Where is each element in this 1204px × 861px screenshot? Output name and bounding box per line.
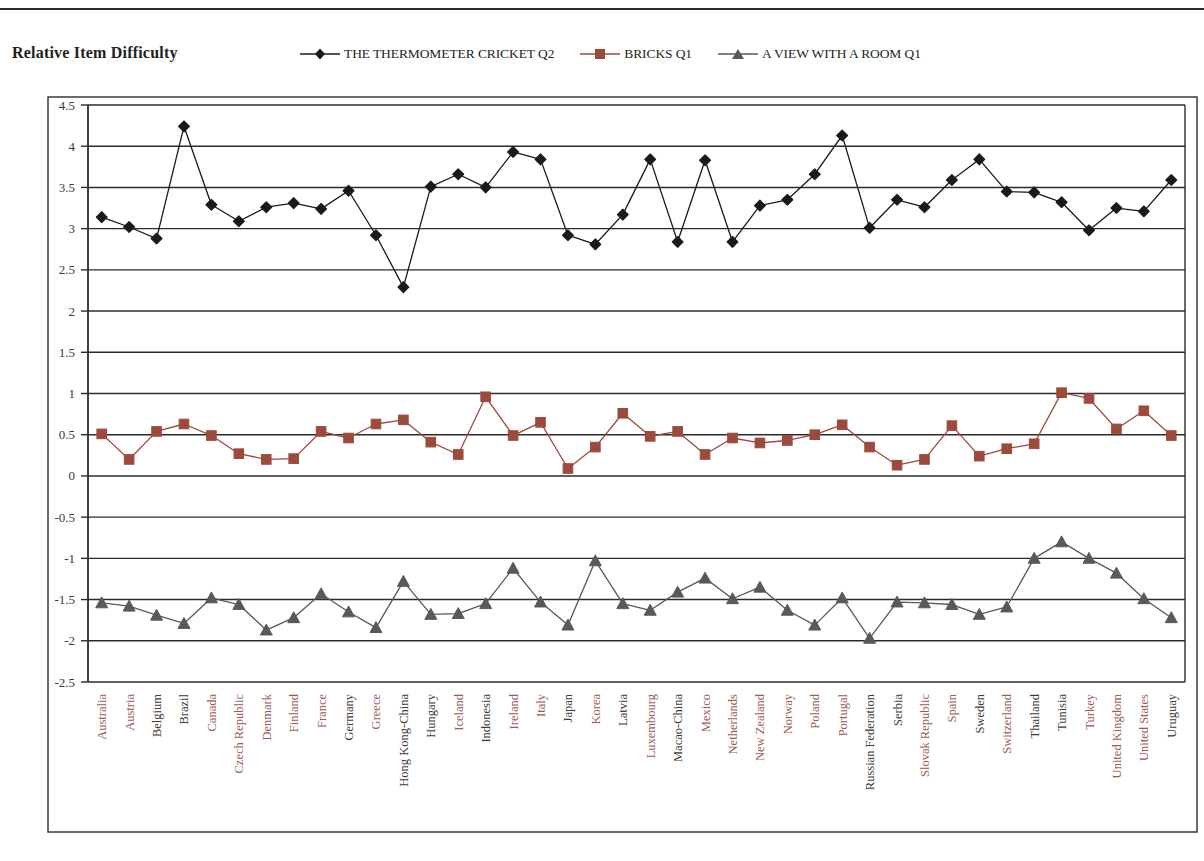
y-tick-label: 3 xyxy=(69,221,76,236)
chart-legend: THE THERMOMETER CRICKET Q2 BRICKS Q1 A V… xyxy=(300,46,921,62)
data-point-square xyxy=(700,450,710,460)
x-axis-label: Germany xyxy=(342,693,356,740)
data-point-triangle xyxy=(343,606,355,617)
data-point-triangle xyxy=(864,632,876,643)
data-point-square xyxy=(289,454,299,464)
data-point-square xyxy=(892,460,902,470)
legend-item-a-view-with-a-room: A VIEW WITH A ROOM Q1 xyxy=(718,46,921,62)
x-axis-label: Latvia xyxy=(616,694,630,726)
y-tick-label: 4.5 xyxy=(59,98,75,113)
data-point-diamond xyxy=(233,216,244,227)
data-point-square xyxy=(179,419,189,429)
data-series xyxy=(96,121,1178,643)
data-point-triangle xyxy=(1110,567,1122,578)
data-point-triangle xyxy=(1165,612,1177,623)
data-point-square xyxy=(618,408,628,418)
x-axis-label: France xyxy=(315,694,329,728)
x-axis-label: Thailand xyxy=(1028,693,1042,738)
data-point-square xyxy=(124,455,134,465)
y-tick-label: -1 xyxy=(64,551,75,566)
x-axis-label: Finland xyxy=(287,693,301,732)
y-tick-label: 4 xyxy=(69,139,76,154)
x-axis-label: Australia xyxy=(95,694,109,740)
data-point-square xyxy=(920,455,930,465)
data-point-triangle xyxy=(589,555,601,566)
data-point-square xyxy=(975,451,985,461)
x-axis-label: United States xyxy=(1137,694,1151,761)
data-point-triangle xyxy=(836,592,848,603)
data-point-triangle xyxy=(891,596,903,607)
data-point-square xyxy=(1139,406,1149,416)
data-point-square xyxy=(591,442,601,452)
data-point-diamond xyxy=(453,169,464,180)
data-point-square xyxy=(1057,388,1067,398)
x-axis-label: Spain xyxy=(945,693,959,722)
data-point-diamond xyxy=(837,130,848,141)
data-point-diamond xyxy=(672,236,683,247)
y-axis-ticks xyxy=(81,105,88,682)
data-point-triangle xyxy=(315,588,327,599)
data-point-diamond xyxy=(755,200,766,211)
data-point-square xyxy=(1084,394,1094,404)
data-point-diamond xyxy=(398,282,409,293)
data-point-diamond xyxy=(563,230,574,241)
x-axis-label: Brazil xyxy=(177,693,191,724)
x-axis-label: Ireland xyxy=(507,693,521,729)
data-point-square xyxy=(536,418,546,428)
x-axis-label: Mexico xyxy=(699,694,713,732)
x-axis-label: Netherlands xyxy=(726,694,740,755)
x-axis-label: Hong Kong-China xyxy=(397,694,411,787)
x-axis-label: Macao-China xyxy=(671,694,685,762)
x-axis-label: Norway xyxy=(781,693,795,734)
data-point-square xyxy=(508,431,518,441)
x-axis-label: New Zealand xyxy=(753,693,767,761)
data-point-diamond xyxy=(179,121,190,132)
data-point-square xyxy=(837,420,847,430)
x-axis-label: Turkey xyxy=(1083,693,1097,729)
y-tick-label: -2 xyxy=(64,633,75,648)
data-point-triangle xyxy=(1056,536,1068,547)
data-point-square xyxy=(426,437,436,447)
x-axis-label: Tunisia xyxy=(1055,694,1069,732)
legend-marker-diamond-icon xyxy=(300,47,340,61)
data-point-square xyxy=(316,427,326,437)
data-point-triangle xyxy=(370,622,382,633)
data-point-triangle xyxy=(96,597,108,608)
x-axis-label: Luxembourg xyxy=(644,693,658,758)
data-point-diamond xyxy=(288,198,299,209)
data-point-square xyxy=(399,415,409,425)
data-point-triangle xyxy=(507,562,519,573)
x-axis-label: Sweden xyxy=(973,693,987,733)
data-point-square xyxy=(207,431,217,441)
legend-label-2: A VIEW WITH A ROOM Q1 xyxy=(762,46,921,62)
series-3 xyxy=(96,536,1178,643)
data-point-square xyxy=(783,436,793,446)
data-point-diamond xyxy=(727,236,738,247)
line-chart: 4.543.532.521.510.50-0.5-1-1.5-2-2.5 Aus… xyxy=(0,92,1204,861)
x-axis-label: Switzerland xyxy=(1000,693,1014,753)
data-point-square xyxy=(97,429,107,439)
y-tick-label: -1.5 xyxy=(54,592,75,607)
data-point-square xyxy=(261,455,271,465)
legend-label-1: BRICKS Q1 xyxy=(624,46,692,62)
y-tick-label: 2 xyxy=(69,304,76,319)
data-point-diamond xyxy=(480,182,491,193)
x-axis-label: Czech Republic xyxy=(232,694,246,774)
x-axis-label: Japan xyxy=(561,693,575,722)
data-point-diamond xyxy=(645,154,656,165)
data-point-triangle xyxy=(452,608,464,619)
data-point-square xyxy=(453,450,463,460)
x-axis-label: Italy xyxy=(534,693,548,717)
data-point-triangle xyxy=(699,572,711,583)
data-point-square xyxy=(947,421,957,431)
x-axis-label: Russian Federation xyxy=(863,693,877,790)
y-tick-label: 3.5 xyxy=(59,180,75,195)
x-axis-label: Hungary xyxy=(424,693,438,737)
y-axis-labels: 4.543.532.521.510.50-0.5-1-1.5-2-2.5 xyxy=(54,98,75,690)
data-point-triangle xyxy=(205,592,217,603)
y-tick-label: 1 xyxy=(69,386,76,401)
data-point-triangle xyxy=(726,593,738,604)
data-point-diamond xyxy=(124,222,135,233)
data-point-diamond xyxy=(1029,187,1040,198)
x-axis-label: United Kingdom xyxy=(1110,694,1124,779)
